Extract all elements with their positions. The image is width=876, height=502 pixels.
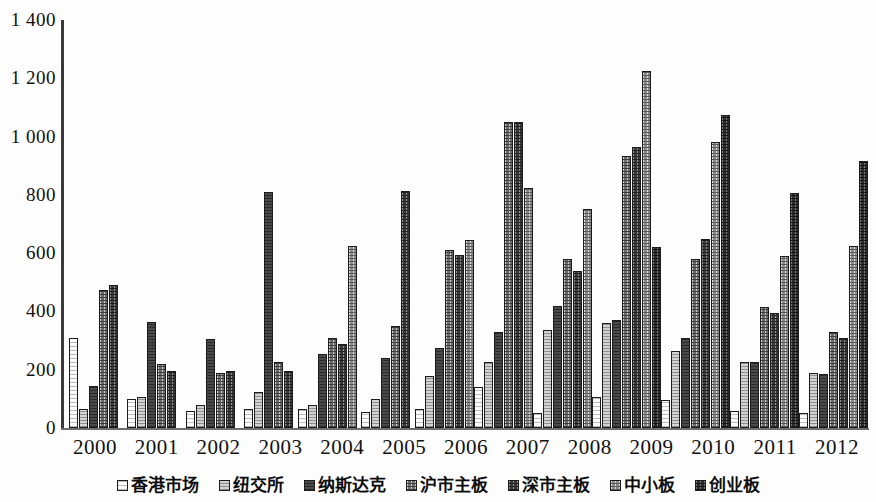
bar: [381, 358, 390, 428]
legend-item[interactable]: 创业板: [695, 477, 760, 494]
bar: [839, 338, 848, 428]
bar-group: [239, 20, 297, 428]
bar: [573, 271, 582, 428]
legend-swatch-icon: [406, 480, 417, 491]
bar: [415, 409, 424, 428]
x-tick-label: 2003: [250, 434, 312, 462]
legend-swatch-icon: [610, 480, 621, 491]
bar: [109, 285, 118, 428]
bar: [494, 332, 503, 428]
bar-group: [64, 20, 122, 428]
bar: [435, 348, 444, 428]
bar-group: [357, 20, 415, 428]
bar: [849, 246, 858, 428]
legend-swatch-icon: [219, 480, 230, 491]
y-tick-label: 1 400: [11, 10, 56, 29]
bar: [642, 71, 651, 428]
bar: [167, 371, 176, 428]
bar: [760, 307, 769, 428]
bar: [308, 405, 317, 428]
legend-item[interactable]: 中小板: [610, 477, 675, 494]
bar: [819, 374, 828, 428]
bar: [69, 338, 78, 428]
x-tick-label: 2001: [126, 434, 188, 462]
bar-group: [122, 20, 180, 428]
y-tick-label: 0: [46, 418, 56, 437]
y-tick-label: 1 000: [11, 127, 56, 146]
bar: [371, 399, 380, 428]
y-tick-label: 600: [26, 243, 56, 262]
x-tick-label: 2010: [682, 434, 744, 462]
legend-item[interactable]: 沪市主板: [406, 477, 488, 494]
legend-item-label: 中小板: [624, 477, 675, 494]
bar: [859, 161, 868, 428]
x-tick-label: 2007: [497, 434, 559, 462]
legend-item-label: 沪市主板: [420, 477, 488, 494]
x-tick-label: 2008: [559, 434, 621, 462]
x-tick-label: 2002: [188, 434, 250, 462]
bar: [89, 386, 98, 428]
bar: [99, 290, 108, 428]
y-tick-label: 1 200: [11, 68, 56, 87]
bar: [391, 326, 400, 428]
legend-item[interactable]: 纽交所: [219, 477, 284, 494]
bar: [484, 362, 493, 428]
x-tick-label: 2004: [311, 434, 373, 462]
chart-legend: 香港市场纽交所纳斯达克沪市主板深市主板中小板创业板: [0, 470, 876, 500]
bar-group: [661, 20, 730, 428]
bar: [127, 399, 136, 428]
bar-chart: 02004006008001 0001 2001 400 20002001200…: [0, 0, 876, 502]
bar: [264, 192, 273, 428]
bar: [196, 405, 205, 428]
bar: [721, 115, 730, 428]
bar: [348, 246, 357, 428]
bar: [244, 409, 253, 428]
y-tick-label: 400: [26, 301, 56, 320]
bar: [553, 306, 562, 428]
bar: [425, 376, 434, 428]
bar: [465, 240, 474, 428]
bar: [770, 313, 779, 428]
bar: [563, 259, 572, 428]
bar: [809, 373, 818, 428]
bar: [186, 411, 195, 428]
bar: [780, 256, 789, 428]
y-axis-tick-labels: 02004006008001 0001 2001 400: [0, 0, 56, 450]
x-tick-label: 2000: [64, 434, 126, 462]
legend-item[interactable]: 纳斯达克: [304, 477, 386, 494]
bar: [533, 413, 542, 428]
bar-group: [474, 20, 533, 428]
bar: [622, 156, 631, 428]
bar: [790, 193, 799, 428]
x-tick-label: 2011: [744, 434, 806, 462]
bar-group: [592, 20, 661, 428]
legend-item-label: 深市主板: [522, 477, 590, 494]
x-tick-label: 2012: [806, 434, 868, 462]
bar: [216, 373, 225, 428]
legend-item[interactable]: 香港市场: [117, 477, 199, 494]
bar: [137, 397, 146, 428]
legend-item-label: 创业板: [709, 477, 760, 494]
bar: [147, 322, 156, 428]
bar: [799, 413, 808, 428]
x-tick-label: 2005: [373, 434, 435, 462]
x-tick-label: 2009: [621, 434, 683, 462]
bar: [284, 371, 293, 428]
bar-group: [730, 20, 799, 428]
y-tick-label: 200: [26, 360, 56, 379]
bar: [79, 409, 88, 428]
legend-item[interactable]: 深市主板: [508, 477, 590, 494]
bar: [274, 362, 283, 428]
legend-item-label: 香港市场: [131, 477, 199, 494]
bar-group: [181, 20, 239, 428]
bar-group: [799, 20, 868, 428]
legend-swatch-icon: [695, 480, 706, 491]
bar: [401, 191, 410, 429]
legend-swatch-icon: [304, 480, 315, 491]
bar: [652, 247, 661, 428]
legend-item-label: 纽交所: [233, 477, 284, 494]
legend-swatch-icon: [508, 480, 519, 491]
bar: [583, 209, 592, 428]
x-axis-line: [61, 428, 869, 430]
bar: [504, 122, 513, 428]
